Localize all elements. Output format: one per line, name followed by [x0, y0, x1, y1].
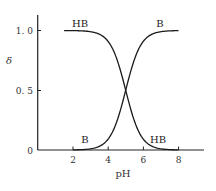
- y-tick-label-0.5: 0. 5: [16, 86, 33, 96]
- y-tick-label-0: 0: [27, 146, 33, 156]
- b-curve: [73, 31, 179, 150]
- b-top-label: B: [156, 18, 163, 29]
- hb-bottom-label: HB: [150, 134, 166, 145]
- x-tick-label-2: 2: [70, 155, 76, 165]
- x-tick-label-4: 4: [105, 155, 111, 165]
- hb-curve: [64, 31, 178, 150]
- x-axis-label: pH: [115, 168, 130, 179]
- y-axis-label: δ: [6, 55, 12, 66]
- x-tick-label-8: 8: [176, 155, 182, 165]
- hb-top-label: HB: [72, 18, 88, 29]
- b-bottom-label: B: [81, 134, 88, 145]
- x-tick-label-6: 6: [141, 155, 147, 165]
- y-tick-label-1: 1. 0: [16, 26, 33, 36]
- fraction-vs-ph-chart: 1. 0 0. 5 0 2 4 6 8 pH δ HB B B HB: [0, 0, 216, 191]
